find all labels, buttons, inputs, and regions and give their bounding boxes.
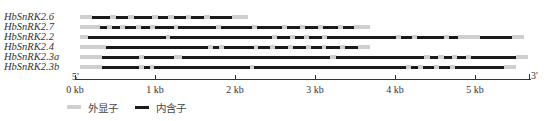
intron-segment [221,26,252,29]
axis-tick-label: 4 kb [386,84,404,95]
axis-tick-label: 2 kb [226,84,244,95]
intron-segment [170,36,272,39]
exon-segment [504,65,516,69]
exon-segment [80,65,102,69]
intron-segment [295,36,304,39]
legend-label: 外显子 [88,100,118,115]
axis-tick [155,75,156,79]
exon-swatch-icon [67,105,81,109]
intron-segment [106,46,208,49]
intron-segment [134,16,152,19]
intron-segment [343,26,353,29]
exon-segment [80,35,88,39]
intron-segment [471,56,516,59]
axis-tick [475,75,476,79]
intron-segment [457,56,467,59]
intron-segment [182,56,330,59]
exon-segment [174,55,183,59]
axis-tick-label: 0 kb [66,84,84,95]
axis-end-hook [529,74,530,80]
intron-swatch-icon [135,106,149,109]
intron-segment [423,66,434,69]
intron-segment [116,16,128,19]
intron-segment [275,46,288,49]
intron-segment [174,16,186,19]
gene-track [0,15,556,19]
gene-track [0,55,556,59]
exon-segment [80,25,100,29]
intron-segment [309,36,323,39]
axis-tick [235,75,236,79]
intron-segment [257,26,283,29]
intron-segment [439,66,450,69]
intron-segment [336,56,424,59]
intron-segment [444,56,452,59]
intron-segment [88,36,166,39]
intron-segment [154,66,250,69]
intron-segment [480,36,512,39]
intron-segment [144,56,174,59]
intron-segment [449,36,459,39]
intron-segment [327,36,396,39]
gene-track [0,25,556,29]
intron-segment [141,26,151,29]
gene-track [0,65,556,69]
intron-segment [254,66,406,69]
intron-segment [210,16,232,19]
axis-tick-label: 1 kb [146,84,164,95]
axis-tick [395,75,396,79]
scale-axis [75,79,531,80]
exon-segment [80,45,106,49]
intron-segment [411,66,418,69]
axis-tick-label: 5 kb [466,84,484,95]
intron-segment [326,46,340,49]
intron-segment [293,46,307,49]
intron-segment [345,46,359,49]
intron-segment [191,16,204,19]
intron-segment [430,56,438,59]
intron-segment [277,36,291,39]
exon-segment [458,35,480,39]
intron-segment [112,26,120,29]
axis-tick [75,75,76,79]
exon-segment [80,15,92,19]
legend-label: 内含子 [156,100,186,115]
intron-segment [323,26,338,29]
intron-segment [102,56,139,59]
intron-segment [158,16,168,19]
exon-segment [358,45,369,49]
exon-segment [232,15,248,19]
intron-segment [311,46,321,49]
axis-tick-label: 3 kb [306,84,324,95]
axis-tick [315,75,316,79]
axis-3prime-label: 3' [531,70,538,81]
exon-segment [80,55,102,59]
intron-segment [417,36,444,39]
gene-track [0,35,556,39]
intron-segment [155,26,173,29]
intron-segment [305,26,319,29]
intron-segment [100,26,107,29]
intron-segment [455,66,504,69]
gene-track [0,45,556,49]
intron-segment [401,36,412,39]
exon-segment [516,55,528,59]
intron-segment [178,26,216,29]
exon-segment [354,25,370,29]
intron-segment [287,26,300,29]
intron-segment [92,16,110,19]
intron-segment [258,46,270,49]
intron-segment [125,26,136,29]
exon-segment [512,35,524,39]
intron-segment [102,66,139,69]
intron-segment [224,46,254,49]
